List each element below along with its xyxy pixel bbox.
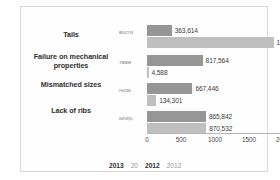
- bar-2012-mismatched-sizes: [147, 95, 156, 106]
- data-label: 667,446: [195, 85, 218, 92]
- chart-legend: 2013 20 2012 2012: [109, 159, 181, 171]
- bar-2012-tails: [147, 37, 274, 48]
- legend-entry-partial[interactable]: 20: [131, 162, 138, 169]
- category-label-column: Tails Failure on mechanical properties M…: [23, 21, 119, 131]
- data-label: 363,614: [175, 27, 198, 34]
- plot-area: вости твам геом. юпер. 363,6141861,34481…: [119, 19, 280, 137]
- bar-2013-tails: [147, 25, 172, 36]
- category-label: Tails: [23, 31, 119, 40]
- legend-entry-2012-secondary[interactable]: 2012: [167, 162, 182, 169]
- bar-2012-failure-on-mechanical-properties: [147, 67, 149, 78]
- inner-axis-label: юпер.: [119, 115, 143, 121]
- bars-container: 363,6141861,344817,5644,588667,446134,30…: [147, 19, 280, 133]
- x-tick-label: 500: [176, 136, 187, 143]
- inner-axis-label: вости: [119, 29, 143, 35]
- x-tick-label: 2000: [276, 136, 280, 143]
- bar-2013-mismatched-sizes: [147, 83, 192, 94]
- legend-entry-2013[interactable]: 2013: [109, 162, 124, 169]
- chart-frame: Tails Failure on mechanical properties M…: [20, 6, 268, 172]
- inner-axis-label: твам: [119, 59, 143, 65]
- data-label: 817,564: [206, 57, 229, 64]
- data-label: 4,588: [152, 69, 168, 76]
- x-axis-line: [147, 133, 280, 134]
- category-label: Failure on mechanical properties: [23, 53, 119, 70]
- chart-page: Tails Failure on mechanical properties M…: [0, 0, 280, 180]
- legend-entry-2012[interactable]: 2012: [145, 162, 160, 169]
- data-label: 870,532: [209, 125, 232, 132]
- bar-2013-failure-on-mechanical-properties: [147, 55, 203, 66]
- category-label: Mismatched sizes: [23, 81, 119, 90]
- category-label: Lack of ribs: [23, 107, 119, 116]
- x-tick-label: 1000: [208, 136, 222, 143]
- inner-axis-label: геом.: [119, 87, 143, 93]
- data-label: 134,301: [159, 97, 182, 104]
- data-label: 865,842: [209, 113, 232, 120]
- bar-2013-lack-of-ribs: [147, 111, 206, 122]
- x-tick-label: 0: [145, 136, 149, 143]
- data-label: 1861,344: [277, 39, 280, 46]
- x-tick-label: 1500: [242, 136, 256, 143]
